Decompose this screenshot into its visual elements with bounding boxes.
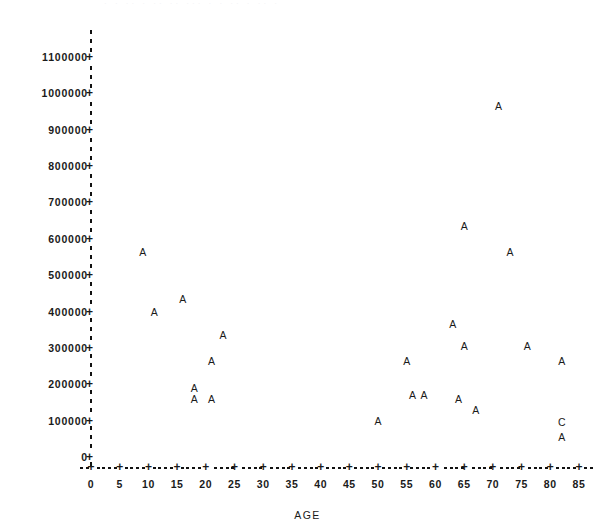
x-axis-dash bbox=[276, 467, 279, 469]
x-axis-dash bbox=[590, 467, 593, 469]
x-axis-dash bbox=[326, 467, 329, 469]
x-axis-dash bbox=[158, 467, 161, 469]
y-axis-dash bbox=[90, 408, 92, 412]
data-point: A bbox=[179, 294, 186, 304]
x-axis-dash bbox=[97, 467, 100, 469]
data-point: A bbox=[455, 394, 462, 404]
x-tick-mark: + bbox=[116, 461, 123, 473]
y-axis-dash bbox=[90, 219, 92, 223]
data-point: A bbox=[507, 247, 514, 257]
x-axis-dash bbox=[410, 467, 413, 469]
x-tick-label: 0 bbox=[88, 479, 94, 490]
x-axis-dash bbox=[394, 467, 397, 469]
y-tick-mark: + bbox=[86, 52, 93, 63]
y-tick-mark: + bbox=[86, 306, 93, 317]
x-axis-dash bbox=[186, 467, 189, 469]
y-axis-dash bbox=[90, 318, 92, 322]
x-tick-mark: + bbox=[288, 461, 295, 473]
y-axis-dash bbox=[90, 210, 92, 214]
y-tick-label: 100000 bbox=[48, 415, 88, 426]
x-tick-mark: + bbox=[260, 461, 267, 473]
x-axis-dash bbox=[584, 467, 587, 469]
y-tick-mark: + bbox=[86, 233, 93, 244]
data-point: A bbox=[461, 221, 468, 231]
x-axis-dash bbox=[427, 467, 430, 469]
data-point: A bbox=[524, 341, 531, 351]
data-point: C bbox=[558, 417, 566, 427]
y-tick-label: 1100000 bbox=[42, 52, 88, 63]
y-axis-dash bbox=[90, 246, 92, 250]
x-tick-mark: + bbox=[317, 461, 324, 473]
x-axis-dash bbox=[528, 467, 531, 469]
x-axis-dash bbox=[304, 467, 307, 469]
x-axis-dash bbox=[220, 467, 223, 469]
y-axis-dash bbox=[90, 255, 92, 259]
y-axis-dash bbox=[90, 354, 92, 358]
y-tick-mark: + bbox=[86, 88, 93, 99]
x-axis-dash bbox=[170, 467, 173, 469]
x-axis-dash bbox=[567, 467, 570, 469]
y-axis-dash bbox=[90, 264, 92, 268]
x-axis-dash bbox=[226, 467, 229, 469]
scatter-plot-canvas: · · ·· · ·· ·· ··· · · ·· · ·· · PRICE 0… bbox=[0, 0, 615, 530]
x-tick-label: 65 bbox=[458, 479, 471, 490]
y-tick-label: 800000 bbox=[48, 161, 88, 172]
x-tick-label: 30 bbox=[257, 479, 270, 490]
x-axis-dash bbox=[242, 467, 245, 469]
y-tick-mark: + bbox=[86, 124, 93, 135]
x-axis-dash bbox=[539, 467, 542, 469]
x-tick-mark: + bbox=[346, 461, 353, 473]
x-axis-dash bbox=[164, 467, 167, 469]
data-point: A bbox=[191, 383, 198, 393]
x-axis-dash bbox=[338, 467, 341, 469]
y-axis-dash bbox=[90, 300, 92, 304]
x-tick-mark: + bbox=[518, 461, 525, 473]
y-axis-dash bbox=[90, 138, 92, 142]
data-point: A bbox=[220, 330, 227, 340]
y-tick-mark: + bbox=[86, 197, 93, 208]
x-tick-label: 80 bbox=[544, 479, 557, 490]
x-axis-dash bbox=[102, 467, 105, 469]
x-axis-dash bbox=[254, 467, 257, 469]
y-tick-label: 300000 bbox=[48, 342, 88, 353]
x-axis-dash bbox=[506, 467, 509, 469]
x-axis-dash bbox=[534, 467, 537, 469]
x-axis-dash bbox=[181, 467, 184, 469]
y-tick-mark: + bbox=[86, 342, 93, 353]
x-tick-mark: + bbox=[461, 461, 468, 473]
x-axis-dash bbox=[130, 467, 133, 469]
y-axis-dash bbox=[90, 39, 92, 43]
x-tick-mark: + bbox=[403, 461, 410, 473]
data-point: A bbox=[208, 356, 215, 366]
x-axis-dash bbox=[422, 467, 425, 469]
y-axis-dash bbox=[90, 66, 92, 70]
x-tick-mark: + bbox=[489, 461, 496, 473]
x-axis-dash bbox=[214, 467, 217, 469]
y-axis-dash bbox=[90, 444, 92, 448]
data-point: A bbox=[409, 390, 416, 400]
x-tick-label: 35 bbox=[285, 479, 298, 490]
x-tick-mark: + bbox=[174, 461, 181, 473]
x-axis-dash bbox=[382, 467, 385, 469]
x-tick-mark: + bbox=[145, 461, 152, 473]
x-axis-dash bbox=[310, 467, 313, 469]
x-axis-dash bbox=[483, 467, 486, 469]
x-axis-dash bbox=[500, 467, 503, 469]
x-axis-dash bbox=[270, 467, 273, 469]
x-axis-dash bbox=[354, 467, 357, 469]
y-tick-label: 1000000 bbox=[42, 88, 88, 99]
x-axis-dash bbox=[455, 467, 458, 469]
x-tick-mark: + bbox=[202, 461, 209, 473]
x-axis-dash bbox=[136, 467, 139, 469]
y-axis-dash bbox=[90, 174, 92, 178]
data-point: A bbox=[420, 390, 427, 400]
x-tick-label: 25 bbox=[228, 479, 241, 490]
data-point: A bbox=[208, 394, 215, 404]
x-tick-label: 40 bbox=[314, 479, 327, 490]
y-axis-dash bbox=[90, 435, 92, 439]
x-axis-dash bbox=[248, 467, 251, 469]
x-tick-label: 45 bbox=[343, 479, 356, 490]
x-axis-dash bbox=[282, 467, 285, 469]
y-axis-dash bbox=[90, 156, 92, 160]
x-tick-mark: + bbox=[575, 461, 582, 473]
